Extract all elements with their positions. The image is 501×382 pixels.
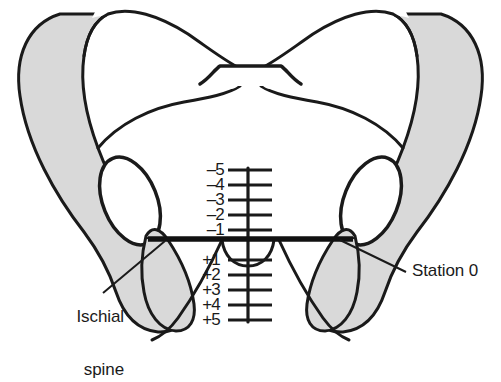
- sacral-promontory: [212, 66, 289, 89]
- ischial-spine-label-line1: Ischial: [16, 308, 124, 326]
- right-pelvic-brim-outline: [261, 86, 403, 148]
- ischial-spine-label-line2: spine: [16, 361, 124, 379]
- station-scale: [228, 168, 272, 322]
- station-label--1: –1: [182, 220, 224, 240]
- station-label-+5: +5: [178, 310, 220, 330]
- left-pelvic-brim-outline: [98, 86, 240, 148]
- station-zero-label: Station 0: [412, 262, 478, 280]
- ischial-spine-label: Ischial spine: [16, 272, 124, 382]
